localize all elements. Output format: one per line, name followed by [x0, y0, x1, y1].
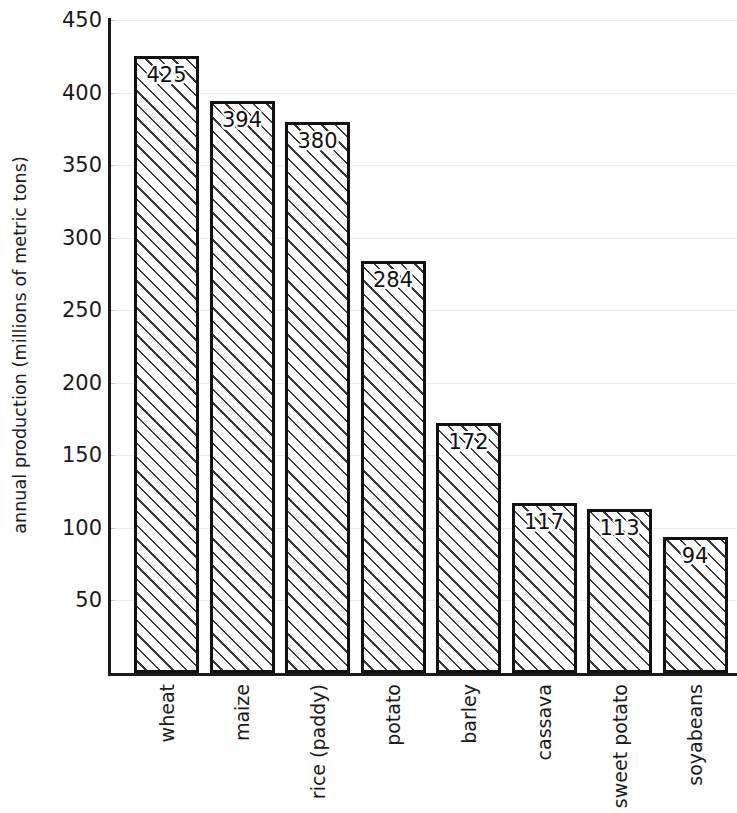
bar: 113 [587, 509, 652, 673]
bar-chart: annual production (millions of metric to… [0, 0, 737, 813]
x-axis-category-label-text: barley [459, 684, 478, 744]
x-axis-category-label-text: sweet potato [610, 684, 629, 808]
bar-value-label: 380 [288, 131, 347, 152]
bar: 425 [134, 56, 199, 673]
x-axis-category-label-text: rice (paddy) [308, 684, 327, 799]
x-axis-category-label: soyabeans [663, 676, 728, 813]
y-axis-title-text: annual production (millions of metric to… [10, 156, 30, 534]
y-axis-tick-label: 200 [40, 372, 102, 393]
bar: 117 [512, 503, 577, 673]
bar: 172 [436, 423, 501, 673]
x-axis-category-label: wheat [134, 676, 199, 813]
x-axis-category-label-text: maize [233, 684, 252, 741]
y-axis-title: annual production (millions of metric to… [0, 0, 40, 690]
bar-value-label: 284 [364, 270, 423, 291]
y-axis-tick-label: 50 [40, 590, 102, 611]
x-axis-category-label-text: soyabeans [686, 684, 705, 786]
y-axis-tick-labels: 45040035030025020015010050 [36, 0, 102, 813]
bar-value-label: 117 [515, 512, 574, 533]
bar: 394 [210, 101, 275, 673]
bar-value-label: 94 [666, 546, 725, 567]
y-axis-tick-label: 150 [40, 445, 102, 466]
x-axis-category-label: sweet potato [587, 676, 652, 813]
bar-value-label: 113 [590, 518, 649, 539]
bar-value-label: 172 [439, 432, 498, 453]
bar: 380 [285, 122, 350, 673]
y-axis-tick-label: 400 [40, 82, 102, 103]
y-axis-tick-label: 450 [40, 10, 102, 31]
x-axis-category-label: rice (paddy) [285, 676, 350, 813]
y-axis-tick-label: 350 [40, 155, 102, 176]
x-axis-category-labels: wheatmaizerice (paddy)potatobarleycassav… [108, 676, 737, 813]
y-axis-tick-label: 300 [40, 227, 102, 248]
bar-value-label: 425 [137, 65, 196, 86]
x-axis-category-label-text: wheat [157, 684, 176, 742]
bar: 94 [663, 537, 728, 673]
x-axis-category-label: cassava [512, 676, 577, 813]
plot-area: 42539438028417211711394 [108, 0, 737, 676]
y-axis-tick-label: 100 [40, 517, 102, 538]
x-axis-category-label: maize [210, 676, 275, 813]
x-axis-category-label: barley [436, 676, 501, 813]
y-axis-tick-label: 250 [40, 300, 102, 321]
x-axis-category-label-text: potato [384, 684, 403, 746]
bars-layer: 42539438028417211711394 [108, 0, 737, 673]
bar: 284 [361, 261, 426, 673]
x-axis-category-label-text: cassava [535, 684, 554, 760]
x-axis-category-label: potato [361, 676, 426, 813]
bar-value-label: 394 [213, 110, 272, 131]
